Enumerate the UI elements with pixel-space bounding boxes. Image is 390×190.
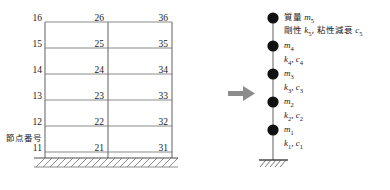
model-ground	[259, 160, 288, 167]
spring-label-4: k4, c4	[284, 55, 303, 66]
mass-label-4: m4	[284, 41, 294, 52]
spring-label-2: k2, c2	[284, 111, 303, 122]
mass-node-1	[267, 124, 278, 135]
mass-label-2-sub: 2	[291, 101, 294, 108]
damper-label-3-sub: 3	[300, 87, 303, 94]
mass-label-2: m2	[284, 97, 294, 108]
mass-node-3	[267, 68, 278, 79]
mass-label-5-jp: 質量	[284, 12, 302, 22]
mass-node-4	[267, 40, 278, 51]
mass-label-5: 質量 m5	[284, 13, 314, 24]
mass-node-2	[267, 96, 278, 107]
damper-label-2-sub: 2	[300, 115, 303, 122]
structural-diagram-figure: 16 15 14 13 12 11 26 25 24 23 22 21 36 3…	[0, 0, 390, 190]
damper-label-4-sub: 4	[300, 59, 303, 66]
mass-label-4-sub: 4	[291, 45, 294, 52]
mass-label-1-sub: 1	[291, 129, 294, 136]
mass-label-3: m3	[284, 69, 294, 80]
damper-label-5-jp: 粘性減衰	[317, 25, 353, 35]
spring-label-1: k1, c1	[284, 139, 303, 150]
mass-label-1: m1	[284, 125, 294, 136]
mass-label-3-sub: 3	[291, 73, 294, 80]
mass-label-5-sub: 5	[311, 17, 314, 24]
mass-node-5	[267, 12, 278, 23]
spring-label-5: 剛性 k5, 粘性減衰 c5	[284, 26, 362, 37]
damper-label-1-sub: 1	[300, 143, 303, 150]
spring-label-5-jp: 剛性	[284, 25, 302, 35]
damper-label-5-sub: 5	[359, 30, 362, 37]
spring-label-3: k3, c3	[284, 83, 303, 94]
